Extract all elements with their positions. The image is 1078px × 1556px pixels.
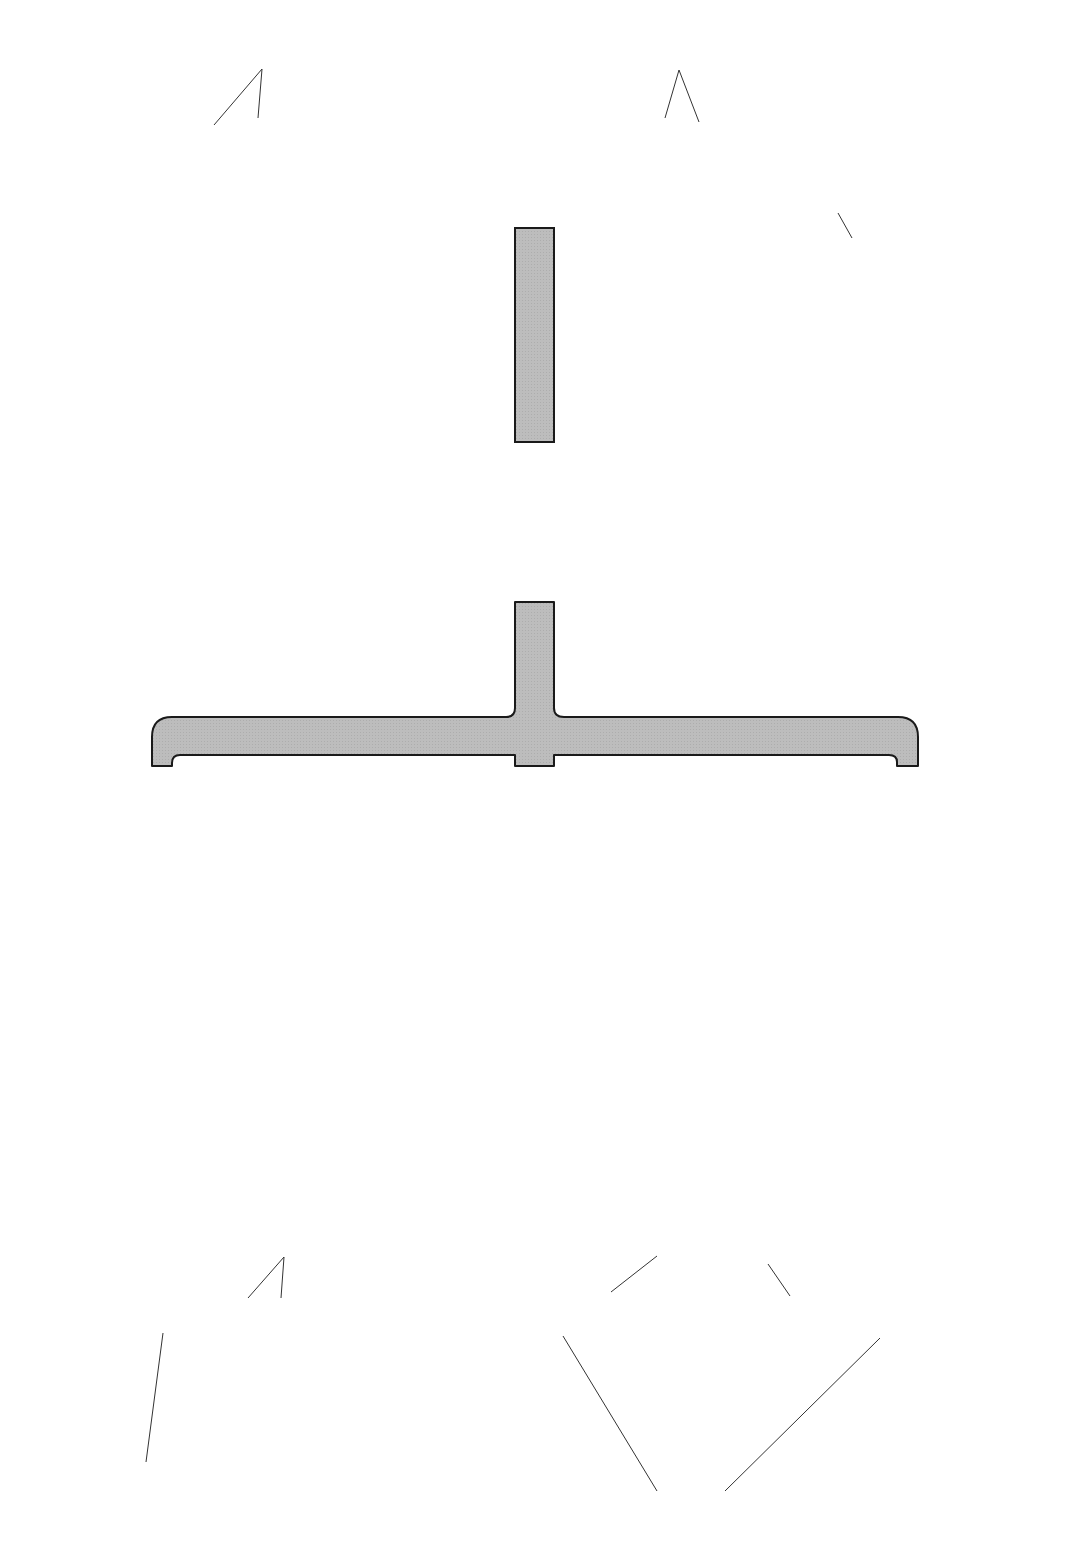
branch-arrow xyxy=(152,602,918,766)
leader-leaves-4 xyxy=(679,70,699,122)
leader-many-c xyxy=(725,1338,880,1491)
leader-healthy-1 xyxy=(248,1257,284,1298)
experiment-flow-diagram xyxy=(0,0,1078,1556)
diagram-canvas xyxy=(0,0,1078,1556)
leader-leaves-3 xyxy=(665,70,679,118)
flow-arrow-shaft-1 xyxy=(515,228,554,442)
leader-leaves-1 xyxy=(214,69,262,125)
leader-unhealthy-c xyxy=(768,1264,790,1296)
leader-seed-tray xyxy=(838,213,852,238)
leader-many-b xyxy=(563,1336,657,1491)
leader-few-mites xyxy=(146,1333,163,1462)
leader-leaves-2 xyxy=(258,69,262,118)
leader-healthy-2 xyxy=(281,1257,284,1298)
leader-lines xyxy=(146,69,880,1491)
leader-unhealthy-b xyxy=(611,1256,657,1292)
